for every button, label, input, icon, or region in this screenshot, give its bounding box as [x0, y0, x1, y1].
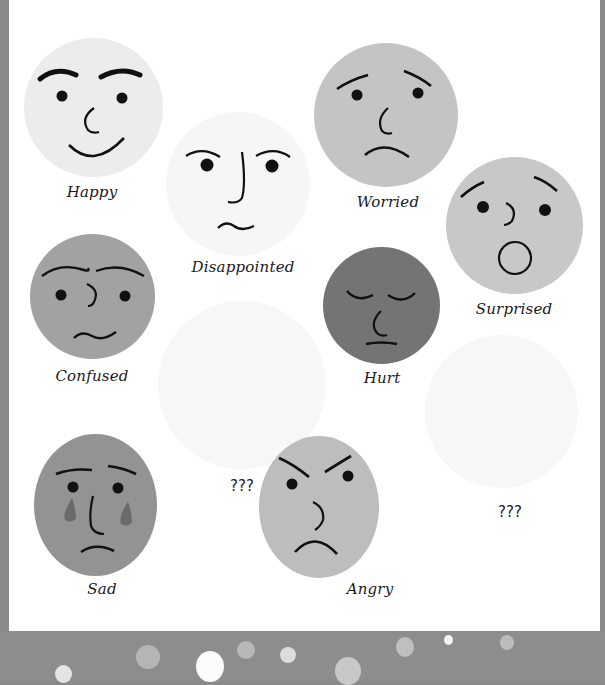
- happy-face-icon: [24, 38, 163, 177]
- face-confused: [30, 234, 155, 359]
- face-worried: [314, 43, 458, 187]
- angry-face-icon: [259, 436, 379, 578]
- face-happy: [24, 38, 163, 177]
- worried-face-icon: [314, 43, 458, 187]
- face-surprised: [446, 157, 583, 294]
- decor-dot-icon: [55, 665, 72, 683]
- decor-dot-icon: [396, 637, 414, 657]
- decor-dot-icon: [335, 657, 361, 685]
- decor-dot-icon: [136, 645, 160, 669]
- tear-right-icon: [120, 502, 132, 526]
- label-happy: Happy: [67, 183, 118, 201]
- unknown-label-2: ???: [498, 503, 522, 521]
- hurt-face-icon: [323, 247, 440, 364]
- face-sad: [34, 434, 157, 576]
- decorative-bottom-band: [0, 631, 605, 682]
- face-unknown-2: [425, 335, 578, 488]
- confused-face-icon: [30, 234, 155, 359]
- disappointed-face-icon: [166, 112, 310, 256]
- face-angry: [259, 436, 379, 578]
- face-hurt: [323, 247, 440, 364]
- label-surprised: Surprised: [476, 300, 553, 318]
- decor-dot-icon: [196, 651, 224, 682]
- decor-dot-icon: [444, 635, 453, 645]
- label-confused: Confused: [55, 367, 128, 385]
- surprised-face-icon: [446, 157, 583, 294]
- decor-dot-icon: [280, 647, 296, 663]
- sad-face-icon: [34, 434, 157, 576]
- label-disappointed: Disappointed: [191, 258, 294, 276]
- tear-left-icon: [64, 498, 76, 522]
- face-disappointed: [166, 112, 310, 256]
- label-angry: Angry: [347, 580, 394, 598]
- unknown-label-1: ???: [230, 477, 254, 495]
- label-worried: Worried: [357, 193, 419, 211]
- label-hurt: Hurt: [364, 369, 401, 387]
- decor-dot-icon: [237, 641, 255, 659]
- decor-dot-icon: [500, 635, 514, 650]
- label-sad: Sad: [87, 580, 116, 598]
